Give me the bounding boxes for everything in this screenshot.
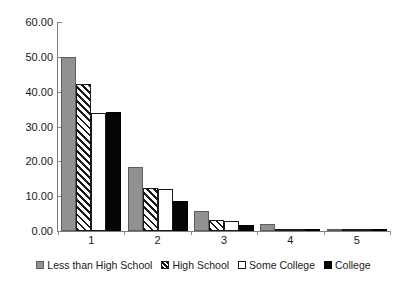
- bar: [194, 211, 209, 231]
- bar: [173, 201, 188, 231]
- x-axis-tick-mark: [257, 231, 258, 235]
- bar: [327, 229, 342, 231]
- x-axis-tick-label: 4: [287, 234, 293, 246]
- bar-group: [124, 22, 190, 231]
- x-axis-tick-mark: [58, 231, 59, 235]
- legend-label: Less than High School: [47, 259, 152, 271]
- bar-group: [257, 22, 323, 231]
- x-axis-tick-mark: [191, 231, 192, 235]
- bar: [260, 224, 275, 231]
- legend-label: High School: [172, 259, 229, 271]
- bar: [357, 229, 372, 231]
- bar: [61, 57, 76, 231]
- bar: [224, 221, 239, 231]
- x-axis-tick-label: 5: [354, 234, 360, 246]
- bar-group: [324, 22, 390, 231]
- bar-group: [58, 22, 124, 231]
- y-axis-labels: 0.0010.0020.0030.0040.0050.0060.00: [8, 0, 53, 250]
- legend-item[interactable]: High School: [161, 259, 229, 271]
- legend-swatch-icon: [161, 261, 169, 269]
- x-axis-tick-label: 2: [155, 234, 161, 246]
- legend-item[interactable]: Some College: [238, 259, 315, 271]
- x-axis-line: [57, 231, 390, 232]
- bar: [275, 229, 290, 231]
- x-axis-tick-mark: [124, 231, 125, 235]
- bar: [372, 229, 387, 231]
- legend-swatch-icon: [324, 261, 332, 269]
- y-axis-tick-label: 20.00: [8, 156, 53, 167]
- bar-chart: 0.0010.0020.0030.0040.0050.0060.00 12345…: [0, 0, 407, 287]
- y-axis-tick-label: 10.00: [8, 191, 53, 202]
- x-axis-tick-label: 3: [221, 234, 227, 246]
- bar: [91, 113, 106, 231]
- bar-group: [191, 22, 257, 231]
- plot-area: 0.0010.0020.0030.0040.0050.0060.00 12345: [0, 0, 407, 250]
- bar: [143, 188, 158, 231]
- bar: [290, 229, 305, 231]
- bar: [76, 84, 91, 231]
- y-axis-tick-label: 50.00: [8, 51, 53, 62]
- legend-item[interactable]: College: [324, 259, 371, 271]
- bar: [239, 225, 254, 231]
- legend-item[interactable]: Less than High School: [36, 259, 152, 271]
- x-axis-tick-label: 1: [88, 234, 94, 246]
- chart-legend: Less than High SchoolHigh SchoolSome Col…: [0, 256, 407, 274]
- legend-label: College: [335, 259, 371, 271]
- bar: [342, 229, 357, 231]
- x-axis-labels: 12345: [58, 234, 390, 252]
- bar: [305, 229, 320, 231]
- bar: [158, 189, 173, 231]
- y-axis-tick-label: 40.00: [8, 86, 53, 97]
- bar: [209, 220, 224, 231]
- x-axis-tick-mark: [324, 231, 325, 235]
- y-axis-tick-label: 30.00: [8, 121, 53, 132]
- bars-container: [58, 22, 390, 231]
- bar: [128, 167, 143, 231]
- bar: [106, 112, 121, 231]
- legend-label: Some College: [249, 259, 315, 271]
- legend-swatch-icon: [238, 261, 246, 269]
- y-axis-tick-label: 60.00: [8, 17, 53, 28]
- legend-swatch-icon: [36, 261, 44, 269]
- x-axis-tick-mark: [390, 231, 391, 235]
- y-axis-tick-label: 0.00: [8, 226, 53, 237]
